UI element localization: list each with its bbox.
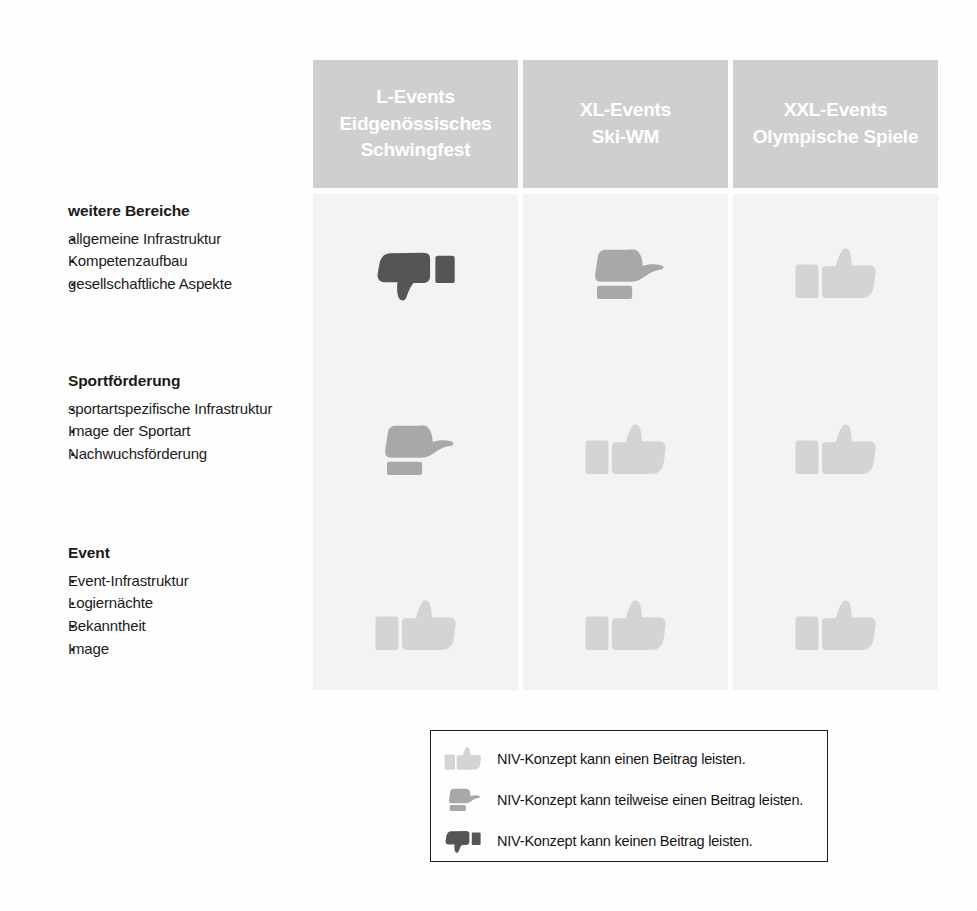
row-title: Sportförderung bbox=[68, 372, 308, 391]
row-label-weitere-bereiche: weitere Bereiche allgemeine Infrastruktu… bbox=[68, 202, 308, 296]
thumbs-down-icon bbox=[443, 826, 483, 856]
legend-label: NIV-Konzept kann einen Beitrag leisten. bbox=[497, 751, 746, 767]
legend-entry-positive: NIV-Konzept kann einen Beitrag leisten. bbox=[443, 744, 746, 774]
thumbs-up-icon bbox=[443, 744, 483, 774]
row-item: Nachwuchsförderung bbox=[68, 443, 308, 466]
column-header-line3: Schwingfest bbox=[361, 137, 471, 164]
rating-cell-r1-c2 bbox=[733, 398, 938, 502]
rating-cell-r0-c2 bbox=[733, 222, 938, 326]
rating-cell-r2-c1 bbox=[523, 574, 728, 678]
row-item: Image der Sportart bbox=[68, 420, 308, 443]
thumbs-up-icon bbox=[582, 423, 670, 478]
column-header-xl-events: XL-Events Ski-WM bbox=[523, 60, 728, 188]
legend-label: NIV-Konzept kann teilweise einen Beitrag… bbox=[497, 792, 803, 808]
thumbs-down-icon bbox=[443, 824, 483, 858]
row-title: weitere Bereiche bbox=[68, 202, 308, 221]
thumbs-side-icon bbox=[443, 783, 483, 817]
rating-cell-r1-c1 bbox=[523, 398, 728, 502]
row-label-event: Event Event-Infrastruktur Logiernächte B… bbox=[68, 544, 308, 661]
row-item: gesellschaftliche Aspekte bbox=[68, 273, 308, 296]
column-header-line2: Olympische Spiele bbox=[753, 124, 919, 151]
row-item: allgemeine Infrastruktur bbox=[68, 228, 308, 251]
thumbs-up-icon bbox=[372, 599, 460, 654]
row-label-sportfoerderung: Sportförderung sportartspezifische Infra… bbox=[68, 372, 308, 466]
rating-cell-r2-c2 bbox=[733, 574, 938, 678]
thumbs-up-icon bbox=[792, 599, 880, 654]
thumbs-up-icon bbox=[792, 247, 880, 302]
row-item: Image bbox=[68, 638, 308, 661]
row-item: Bekanntheit bbox=[68, 615, 308, 638]
row-items: Event-Infrastruktur Logiernächte Bekannt… bbox=[68, 570, 308, 661]
rating-cell-r0-c0 bbox=[313, 222, 518, 326]
legend-label: NIV-Konzept kann keinen Beitrag leisten. bbox=[497, 833, 753, 849]
column-header-line1: XXL-Events bbox=[784, 97, 888, 124]
thumbs-side-icon bbox=[443, 785, 483, 815]
row-items: sportartspezifische Infrastruktur Image … bbox=[68, 398, 308, 466]
row-item: Kompetenzaufbau bbox=[68, 250, 308, 273]
thumbs-side-icon bbox=[372, 423, 460, 478]
column-header-line2: Ski-WM bbox=[592, 124, 659, 151]
column-header-line2: Eidgenössisches bbox=[339, 111, 491, 138]
legend-entry-partial: NIV-Konzept kann teilweise einen Beitrag… bbox=[443, 785, 803, 815]
thumbs-side-icon bbox=[582, 247, 670, 302]
row-item: Event-Infrastruktur bbox=[68, 570, 308, 593]
column-header-line1: XL-Events bbox=[580, 97, 671, 124]
legend-box: NIV-Konzept kann einen Beitrag leisten. … bbox=[430, 730, 828, 862]
rating-cell-r1-c0 bbox=[313, 398, 518, 502]
thumbs-up-icon bbox=[582, 599, 670, 654]
row-item: sportartspezifische Infrastruktur bbox=[68, 398, 308, 421]
column-header-l-events: L-Events Eidgenössisches Schwingfest bbox=[313, 60, 518, 188]
thumbs-down-icon bbox=[372, 247, 460, 302]
rating-cell-r2-c0 bbox=[313, 574, 518, 678]
thumbs-up-icon bbox=[443, 742, 483, 776]
row-item: Logiernächte bbox=[68, 592, 308, 615]
thumbs-up-icon bbox=[792, 423, 880, 478]
column-header-line1: L-Events bbox=[376, 84, 455, 111]
legend-entry-negative: NIV-Konzept kann keinen Beitrag leisten. bbox=[443, 826, 753, 856]
rating-cell-r0-c1 bbox=[523, 222, 728, 326]
column-header-xxl-events: XXL-Events Olympische Spiele bbox=[733, 60, 938, 188]
row-title: Event bbox=[68, 544, 308, 563]
row-items: allgemeine Infrastruktur Kompetenzaufbau… bbox=[68, 228, 308, 296]
